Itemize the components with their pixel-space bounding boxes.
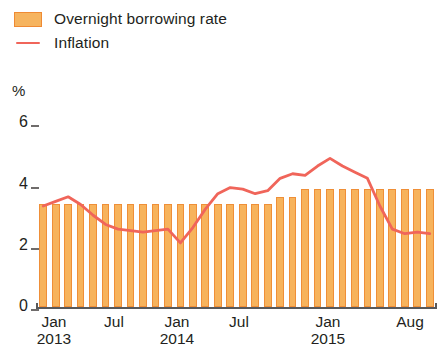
- bar-2: [64, 204, 72, 307]
- bar-25: [351, 189, 359, 307]
- x-axis-tick-label-1: Jul: [86, 313, 142, 330]
- bar-30: [413, 189, 421, 307]
- bar-22: [314, 189, 322, 307]
- x-axis-year-0: 2013: [26, 330, 82, 348]
- bar-8: [139, 204, 147, 307]
- bar-10: [164, 204, 172, 307]
- bar-4: [89, 204, 97, 307]
- y-axis-tick-mark-0: [31, 309, 39, 311]
- bar-16: [239, 204, 247, 307]
- bar-19: [276, 197, 284, 308]
- bar-swatch-icon: [14, 12, 42, 27]
- line-swatch-icon: [14, 36, 42, 51]
- x-axis-year-4: 2015: [300, 330, 356, 348]
- x-axis-month-5: Aug: [396, 313, 424, 330]
- bar-1: [52, 204, 60, 307]
- y-axis-tick-label-2: 2: [6, 236, 28, 254]
- legend-label-overnight-borrowing-rate: Overnight borrowing rate: [54, 10, 227, 28]
- bar-13: [201, 204, 209, 307]
- bar-29: [401, 189, 409, 307]
- bar-11: [177, 204, 185, 307]
- x-axis-year-2: 2014: [149, 330, 205, 348]
- legend-label-inflation: Inflation: [54, 34, 109, 52]
- bar-24: [339, 189, 347, 307]
- x-axis-month-4: Jan: [316, 313, 341, 330]
- legend-item-overnight-borrowing-rate: Overnight borrowing rate: [14, 8, 227, 30]
- bar-3: [77, 204, 85, 307]
- bar-5: [102, 204, 110, 307]
- x-axis-month-1: Jul: [104, 313, 124, 330]
- plot-area: [36, 100, 436, 308]
- bar-12: [189, 204, 197, 307]
- bar-21: [301, 189, 309, 307]
- x-axis-month-2: Jan: [165, 313, 190, 330]
- x-axis-month-3: Jul: [229, 313, 249, 330]
- bar-18: [264, 204, 272, 307]
- bar-9: [152, 204, 160, 307]
- x-axis-tick-label-5: Aug: [382, 313, 438, 330]
- y-axis-unit-label: %: [12, 82, 25, 99]
- x-axis-month-0: Jan: [42, 313, 67, 330]
- bar-27: [376, 189, 384, 307]
- x-axis-tick-label-4: Jan 2015: [300, 313, 356, 348]
- y-axis-tick-label-6: 6: [6, 113, 28, 131]
- y-axis-tick-label-0: 0: [6, 297, 28, 315]
- bar-14: [214, 204, 222, 307]
- chart-legend: Overnight borrowing rate Inflation: [14, 8, 227, 54]
- legend-item-inflation: Inflation: [14, 32, 227, 54]
- bar-28: [388, 189, 396, 307]
- y-axis-tick-label-4: 4: [6, 175, 28, 193]
- bar-17: [251, 204, 259, 307]
- bar-20: [289, 197, 297, 308]
- bar-7: [127, 204, 135, 307]
- bar-6: [114, 204, 122, 307]
- bar-31: [426, 189, 434, 307]
- x-axis-baseline: [36, 307, 437, 309]
- bar-23: [326, 189, 334, 307]
- x-axis-tick-label-2: Jan 2014: [149, 313, 205, 348]
- x-axis-tick-label-0: Jan 2013: [26, 313, 82, 348]
- x-axis-tick-label-3: Jul: [211, 313, 267, 330]
- bar-0: [39, 204, 47, 307]
- chart-figure: Overnight borrowing rate Inflation % 6 4…: [0, 0, 441, 354]
- bar-26: [364, 189, 372, 307]
- bar-15: [226, 204, 234, 307]
